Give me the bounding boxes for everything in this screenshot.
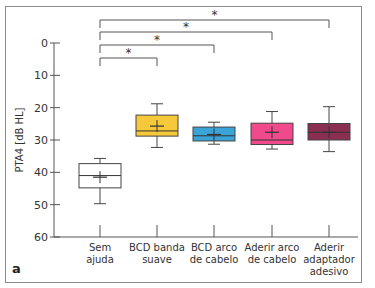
x-tick-label: BCD arco: [191, 242, 237, 253]
significance-bracket: *: [100, 33, 214, 53]
significance-star: *: [126, 46, 132, 60]
significance-bracket: *: [100, 20, 272, 40]
box-4: [308, 107, 350, 237]
y-tick-label: 50: [34, 199, 48, 212]
panel-label: a: [12, 261, 21, 276]
x-tick-label: adaptador: [303, 254, 355, 265]
significance-star: *: [183, 20, 189, 34]
box-2: [193, 122, 235, 237]
x-tick-label: BCD banda: [129, 242, 185, 253]
box-0: [79, 158, 121, 237]
significance-star: *: [212, 8, 218, 22]
x-tick-label: de cabelo: [248, 254, 297, 265]
x-tick-label: Aderir arco: [245, 242, 300, 253]
y-tick-label: 0: [41, 37, 48, 50]
y-tick-label: 40: [34, 166, 48, 179]
y-tick-label: 60: [34, 231, 48, 244]
box-plot-chart: 0102030405060PTA4 [dB HL]SemajudaBCD ban…: [0, 0, 375, 288]
x-tick-label: Sem: [89, 242, 111, 253]
y-tick-label: 30: [34, 134, 48, 147]
box-1: [136, 104, 178, 237]
significance-bracket: *: [100, 8, 329, 28]
y-axis-label: PTA4 [dB HL]: [14, 107, 25, 172]
x-tick-label: Aderir: [314, 242, 345, 253]
significance-bracket: *: [100, 46, 157, 66]
y-axis: 0102030405060: [34, 37, 60, 244]
x-tick-label: de cabelo: [190, 254, 239, 265]
box-3: [251, 112, 293, 237]
x-tick-label: adesivo: [310, 266, 349, 277]
y-tick-label: 10: [34, 69, 48, 82]
significance-star: *: [154, 33, 160, 47]
x-tick-label: ajuda: [86, 254, 114, 265]
x-tick-label: suave: [142, 254, 172, 265]
y-tick-label: 20: [34, 102, 48, 115]
